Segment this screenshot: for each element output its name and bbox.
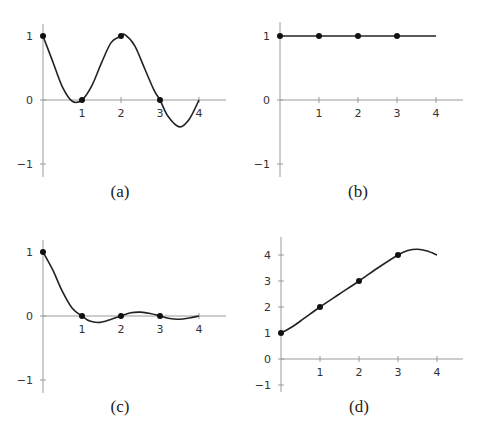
y-tick-label: 0 [263,94,270,107]
panel-caption: (b) [348,182,368,201]
data-point [118,33,124,39]
data-point [157,97,163,103]
data-point [118,313,124,319]
x-tick-label: 1 [79,323,86,336]
curve-line [281,249,437,333]
x-tick-label: 3 [157,323,164,336]
y-tick-label: −1 [17,374,33,387]
y-tick-label: 1 [26,30,33,43]
x-tick-label: 4 [196,323,203,336]
y-tick-label: −1 [17,158,33,171]
x-tick-label: 2 [356,366,363,379]
panel-b: 123410−1(b) [254,22,463,201]
panel-a: 123410−1(a) [17,24,226,201]
y-tick-label: 1 [263,30,270,43]
y-tick-label: −1 [255,379,271,392]
x-tick-label: 1 [79,107,86,120]
panel-c: 123410−1(c) [17,240,226,416]
x-tick-label: 2 [118,107,125,120]
x-tick-label: 1 [316,107,323,120]
data-point [40,33,46,39]
data-point [355,33,361,39]
y-tick-label: 3 [264,275,271,288]
x-tick-label: 4 [434,366,441,379]
y-tick-label: 1 [264,327,271,340]
data-point [79,313,85,319]
data-point [278,330,284,336]
y-tick-label: 0 [26,310,33,323]
x-tick-label: 3 [157,107,164,120]
x-tick-label: 4 [196,107,203,120]
data-point [79,97,85,103]
x-tick-label: 2 [118,323,125,336]
cutoff-caption-text [0,427,483,434]
panel-caption: (a) [111,182,130,201]
data-point [277,33,283,39]
y-tick-label: 1 [26,246,33,259]
x-tick-label: 2 [355,107,362,120]
x-tick-label: 1 [317,366,324,379]
panel-caption: (c) [111,397,130,416]
y-tick-label: 0 [26,94,33,107]
y-tick-label: 4 [264,249,271,262]
data-point [395,252,401,258]
panel-d: 123443210−1(d) [255,237,463,416]
x-tick-label: 4 [433,107,440,120]
data-point [317,304,323,310]
y-tick-label: 0 [264,353,271,366]
x-tick-label: 3 [395,366,402,379]
panel-caption: (d) [349,397,369,416]
data-point [356,278,362,284]
curve-line [43,252,199,322]
x-tick-label: 3 [394,107,401,120]
data-point [40,249,46,255]
y-tick-label: 2 [264,301,271,314]
y-tick-label: −1 [254,158,270,171]
data-point [157,313,163,319]
data-point [394,33,400,39]
data-point [316,33,322,39]
figure-panels: 123410−1(a)123410−1(b)123410−1(c)1234432… [0,0,483,434]
